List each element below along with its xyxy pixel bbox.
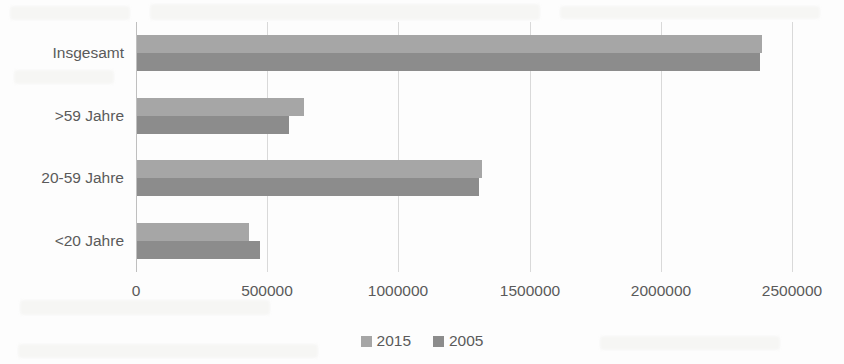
chart-legend: 2015 2005 <box>0 332 844 350</box>
y-axis-labels: Insgesamt >59 Jahre 20-59 Jahre <20 Jahr… <box>0 22 128 272</box>
legend-swatch-icon <box>361 336 372 347</box>
x-axis-tick-label: 500000 <box>241 282 293 300</box>
bar-2015--20-jahre <box>137 223 249 241</box>
scan-artifact <box>560 6 820 19</box>
scan-artifact <box>10 6 130 20</box>
bar-2005--20-jahre <box>137 241 260 259</box>
y-axis-tick-label: 20-59 Jahre <box>41 169 124 187</box>
bar-2005-20-59-jahre <box>137 178 479 196</box>
bar-2015--59-jahre <box>137 98 304 116</box>
x-axis-tick-label: 2000000 <box>631 282 691 300</box>
legend-swatch-icon <box>433 336 444 347</box>
scan-artifact <box>150 4 540 20</box>
y-axis-tick-label: Insgesamt <box>52 44 124 62</box>
legend-item-2015: 2015 <box>361 332 411 350</box>
bar-chart: Insgesamt >59 Jahre 20-59 Jahre <20 Jahr… <box>0 0 844 364</box>
y-axis-tick-label: <20 Jahre <box>55 232 124 250</box>
x-axis-tick-label: 0 <box>132 282 141 300</box>
legend-label: 2015 <box>377 332 411 350</box>
legend-item-2005: 2005 <box>433 332 483 350</box>
bar-2015-20-59-jahre <box>137 160 482 178</box>
bar-2005--59-jahre <box>137 116 289 134</box>
bar-2005-insgesamt <box>137 53 760 71</box>
x-axis-tick-label: 1500000 <box>500 282 560 300</box>
legend-label: 2005 <box>449 332 483 350</box>
bar-2015-insgesamt <box>137 35 762 53</box>
gridline-2500000 <box>792 22 793 272</box>
y-axis-tick-label: >59 Jahre <box>55 107 124 125</box>
x-axis-tick-label: 1000000 <box>368 282 428 300</box>
x-axis-tick-label: 2500000 <box>762 282 822 300</box>
x-axis-labels: 0 500000 1000000 1500000 2000000 2500000 <box>0 282 844 306</box>
plot-area <box>136 22 792 272</box>
